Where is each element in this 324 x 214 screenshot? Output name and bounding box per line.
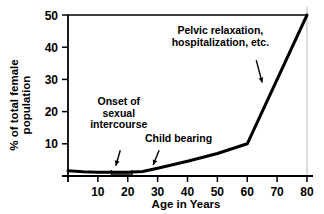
x-axis-tick-label: 30 (151, 185, 165, 199)
y-axis-tick-label: 20 (45, 105, 59, 119)
x-axis-tick-label: 50 (211, 185, 225, 199)
annotation-label: Onset of (97, 95, 140, 107)
annotation-label: intercourse (90, 118, 147, 130)
chart-container: 1020304050607080 1020304050 Onset ofsexu… (0, 0, 324, 214)
annotation-label: sexual (102, 107, 135, 119)
annotation-label: Child bearing (145, 132, 212, 144)
y-axis-tick-label: 30 (45, 73, 59, 87)
y-axis-tick-label: 10 (45, 137, 59, 151)
x-axis-tick-label: 20 (121, 185, 135, 199)
x-axis-tick-label: 80 (300, 185, 314, 199)
x-axis-tick-label: 40 (181, 185, 195, 199)
x-axis-tick-label: 10 (91, 185, 105, 199)
y-axis-tick-label: 50 (45, 9, 59, 23)
y-axis-title-line1: % of total female (8, 59, 20, 150)
x-axis-tick-label: 60 (241, 185, 255, 199)
y-axis-tick-label: 40 (45, 41, 59, 55)
x-axis-title: Age in Years (152, 198, 221, 210)
annotation-label: Pelvic relaxation, (177, 24, 263, 36)
population-vs-age-line-chart: 1020304050607080 1020304050 Onset ofsexu… (0, 0, 324, 214)
x-axis-tick-label: 70 (270, 185, 284, 199)
annotation-label: hospitalization, etc. (172, 36, 270, 48)
y-axis-title-line2: population (20, 76, 32, 135)
